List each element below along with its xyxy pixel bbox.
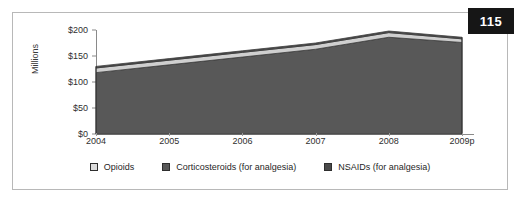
legend-item[interactable]: NSAIDs (for analgesia) <box>324 162 430 172</box>
x-axis-tick-label: 2009p <box>449 136 474 146</box>
x-axis-tick-mark <box>96 133 97 136</box>
legend-item-label: NSAIDs (for analgesia) <box>338 162 430 172</box>
x-axis-tick-label: 2004 <box>86 136 106 146</box>
chart-plot-area: Millions $0$50$100$150$200 2004200520062… <box>12 12 508 144</box>
x-axis-tick-label: 2007 <box>306 136 326 146</box>
legend-swatch-icon <box>90 163 98 171</box>
legend-swatch-icon <box>162 163 170 171</box>
figure-root: 115 Millions $0$50$100$150$200 200420052… <box>0 0 522 204</box>
legend-item-label: Corticosteroids (for analgesia) <box>176 162 296 172</box>
legend-item[interactable]: Opioids <box>90 162 135 172</box>
legend-swatch-icon <box>324 163 332 171</box>
x-axis-tick-mark <box>389 133 390 136</box>
x-axis-tick-mark <box>462 133 463 136</box>
x-axis-tick-label: 2005 <box>159 136 179 146</box>
x-axis-tick-labels: 200420052006200720082009p <box>12 136 508 152</box>
x-axis-tick-mark <box>242 133 243 136</box>
stacked-area-plot <box>12 12 508 144</box>
x-axis-tick-mark <box>316 133 317 136</box>
x-axis-tick-label: 2006 <box>232 136 252 146</box>
x-axis-tick-mark <box>169 133 170 136</box>
x-axis-tick-label: 2008 <box>379 136 399 146</box>
legend-item-label: Opioids <box>104 162 135 172</box>
chart-legend: OpioidsCorticosteroids (for analgesia)NS… <box>12 158 508 176</box>
legend-item[interactable]: Corticosteroids (for analgesia) <box>162 162 296 172</box>
